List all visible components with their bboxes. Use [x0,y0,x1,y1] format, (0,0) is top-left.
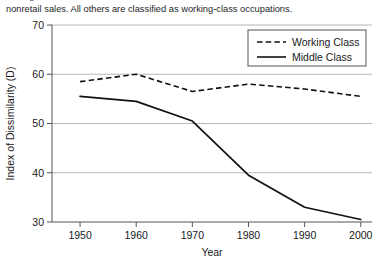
x-tick-label: 1960 [125,229,149,241]
chart-canvas: 3040506070 195019601970198019902000 Inde… [0,18,390,265]
x-tick-label: 1970 [181,229,205,241]
x-tick-label: 1950 [68,229,92,241]
figure-caption: management, and nonretail sales. All oth… [0,0,390,15]
series-line-working-class [80,74,361,96]
x-tick-label: 2000 [349,229,373,241]
x-tick-label: 1980 [237,229,261,241]
y-tick-label: 70 [32,19,44,31]
legend-label: Working Class [292,36,360,48]
y-tick-label: 50 [32,117,44,129]
legend-label: Middle Class [292,51,352,63]
data-series-group [80,74,361,219]
y-tick-label: 60 [32,68,44,80]
x-axis-label: Year [201,246,223,258]
series-line-middle-class [80,96,361,219]
chart-legend: Working ClassMiddle Class [248,30,366,66]
x-tick-label: 1990 [293,229,317,241]
y-axis-ticks: 3040506070 [32,19,52,228]
line-chart: 3040506070 195019601970198019902000 Inde… [0,18,390,265]
y-tick-label: 30 [32,216,44,228]
y-axis-label: Index of Dissimilarity (D) [4,67,16,181]
y-tick-label: 40 [32,167,44,179]
caption-line-1: nonretail sales. All others are classifi… [6,3,386,16]
x-axis-ticks: 195019601970198019902000 [68,222,372,241]
